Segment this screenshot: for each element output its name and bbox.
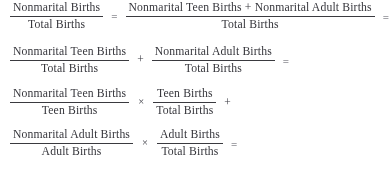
fraction-numerator: Nonmarital Adult Births (10, 128, 133, 143)
fraction-denominator: Total Births (25, 17, 88, 32)
fraction-adult-over-total: Adult Births Total Births (155, 128, 225, 158)
fraction-denominator: Total Births (182, 61, 245, 76)
fraction-nonmarital-over-total: Nonmarital Births Total Births (8, 1, 105, 31)
fraction-teen-over-total: Teen Births Total Births (151, 87, 218, 117)
fraction-numerator: Nonmarital Adult Births (152, 45, 275, 60)
trailing-equals-operator: = (277, 56, 295, 67)
trailing-equals-operator: = (377, 12, 390, 23)
fraction-denominator: Total Births (158, 144, 221, 159)
fraction-numerator: Nonmarital Teen Births (10, 45, 129, 60)
trailing-plus-operator: + (218, 97, 237, 109)
equation-block: Nonmarital Births Total Births = Nonmari… (0, 0, 390, 173)
equals-operator: = (105, 11, 123, 22)
fraction-denominator: Total Births (38, 61, 101, 76)
trailing-equals-operator: = (225, 139, 243, 150)
fraction-nonmarital-adult-over-adult: Nonmarital Adult Births Adult Births (8, 128, 135, 158)
fraction-teen-plus-adult-over-total: Nonmarital Teen Births + Nonmarital Adul… (124, 1, 377, 31)
fraction-denominator: Total Births (219, 17, 282, 32)
equation-line-3: Nonmarital Teen Births Teen Births × Tee… (8, 87, 237, 117)
fraction-denominator: Adult Births (39, 144, 105, 159)
fraction-denominator: Total Births (153, 103, 216, 118)
fraction-denominator: Teen Births (39, 103, 101, 118)
fraction-numerator: Adult Births (157, 128, 223, 143)
fraction-numerator: Nonmarital Teen Births (10, 87, 129, 102)
equation-line-2: Nonmarital Teen Births Total Births + No… (8, 45, 295, 75)
fraction-numerator: Nonmarital Teen Births + Nonmarital Adul… (126, 1, 375, 16)
multiplication-operator: × (135, 138, 155, 149)
equation-line-4: Nonmarital Adult Births Adult Births × A… (8, 128, 243, 158)
plus-operator: + (131, 54, 150, 66)
fraction-nonmarital-teen-over-teen: Nonmarital Teen Births Teen Births (8, 87, 131, 117)
equation-line-1: Nonmarital Births Total Births = Nonmari… (8, 1, 390, 31)
fraction-nonmarital-teen-over-total: Nonmarital Teen Births Total Births (8, 45, 131, 75)
fraction-numerator: Teen Births (154, 87, 216, 102)
multiplication-operator: × (131, 97, 151, 108)
fraction-numerator: Nonmarital Births (10, 1, 103, 16)
fraction-nonmarital-adult-over-total: Nonmarital Adult Births Total Births (150, 45, 277, 75)
